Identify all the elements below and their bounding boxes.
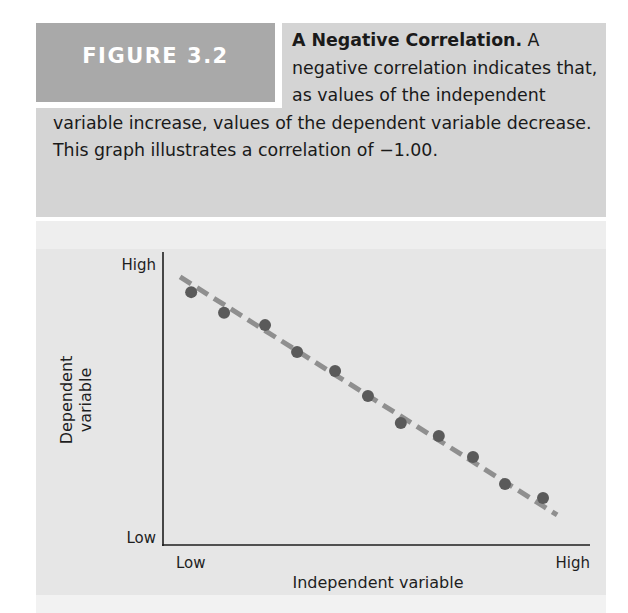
data-point	[185, 286, 197, 298]
data-point	[291, 346, 303, 358]
data-point	[433, 430, 445, 442]
data-point	[259, 319, 271, 331]
y-axis-title: Dependent variable	[57, 356, 95, 445]
data-points	[185, 286, 549, 504]
x-tick-high: High	[556, 554, 590, 572]
data-point	[499, 478, 511, 490]
svg-text:Dependent: Dependent	[57, 356, 76, 445]
x-tick-low: Low	[176, 554, 206, 572]
data-point	[395, 417, 407, 429]
scatter-plot: High Low Low High Independent variable D…	[0, 0, 628, 613]
y-tick-low: Low	[126, 529, 156, 547]
x-axis-title: Independent variable	[292, 573, 463, 592]
data-point	[537, 492, 549, 504]
svg-text:variable: variable	[76, 368, 95, 433]
data-point	[467, 451, 479, 463]
y-tick-high: High	[122, 256, 156, 274]
data-point	[218, 307, 230, 319]
data-point	[362, 390, 374, 402]
data-point	[329, 365, 341, 377]
